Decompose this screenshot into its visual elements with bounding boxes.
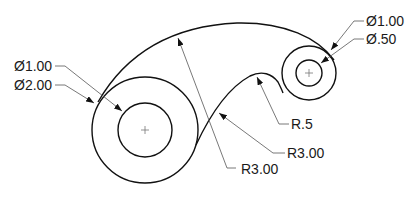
small-inner-diameter-label: Ø.50 bbox=[366, 31, 396, 47]
upper-arc bbox=[98, 23, 334, 102]
lower-arc bbox=[196, 73, 283, 145]
fillet-radius-label: R.5 bbox=[291, 116, 313, 132]
center-mark-icon bbox=[141, 126, 149, 134]
upper-arc-radius-label: R3.00 bbox=[241, 161, 278, 177]
small-outer-diameter-label: Ø1.00 bbox=[366, 13, 404, 29]
large-inner-diameter-label: Ø1.00 bbox=[14, 58, 52, 74]
technical-drawing bbox=[0, 0, 412, 198]
large-outer-diameter-label: Ø2.00 bbox=[14, 77, 52, 93]
center-mark-icon bbox=[305, 69, 313, 77]
lower-arc-radius-label: R3.00 bbox=[287, 145, 324, 161]
